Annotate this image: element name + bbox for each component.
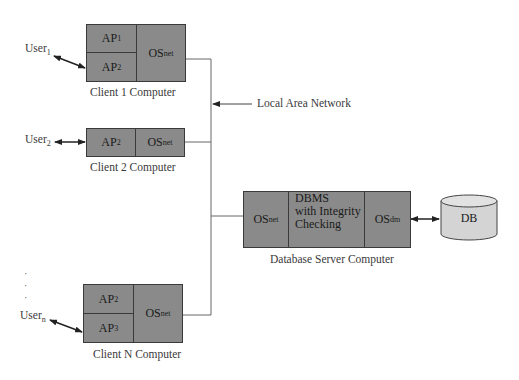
client-1-ap2: AP2 <box>87 53 137 81</box>
db-label: DB <box>440 211 498 226</box>
more-clients-ellipsis: ··· <box>24 268 27 304</box>
database-server-computer: OSnet DBMS with Integrity Checking OSdm <box>243 191 411 248</box>
client-n-ap2: AP2 <box>84 285 134 314</box>
client-2-os-net: OSnet <box>136 129 184 156</box>
network-lines <box>0 0 519 380</box>
client-n-ap3: AP3 <box>84 314 134 342</box>
client-2-computer: AP2 OSnet <box>86 128 185 157</box>
client-1-os-net: OSnet <box>137 25 185 81</box>
client-2-caption: Client 2 Computer <box>90 161 176 173</box>
server-caption: Database Server Computer <box>270 253 394 265</box>
lan-label: Local Area Network <box>257 97 351 109</box>
client-1-ap1: AP1 <box>87 25 137 53</box>
client-1-computer: AP1 AP2 OSnet <box>86 24 186 82</box>
client-1-caption: Client 1 Computer <box>90 86 176 98</box>
server-os-net: OSnet <box>244 192 289 247</box>
user-1-label: User1 <box>25 42 51 57</box>
user-n-label: Usern <box>20 309 46 324</box>
client-n-computer: AP2 AP3 OSnet <box>83 284 183 343</box>
client-n-caption: Client N Computer <box>93 348 181 360</box>
client-n-os-net: OSnet <box>134 285 182 342</box>
server-dbms: DBMS with Integrity Checking <box>289 192 365 247</box>
user-2-label: User2 <box>25 133 51 148</box>
client-2-ap2: AP2 <box>87 129 136 156</box>
server-os-dm: OSdm <box>365 192 410 247</box>
